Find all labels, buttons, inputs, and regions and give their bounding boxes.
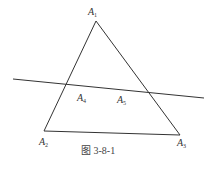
label-a1: A1	[88, 7, 97, 18]
label-a3: A3	[177, 138, 186, 149]
label-a4: A4	[77, 93, 86, 104]
secant-line	[13, 79, 204, 98]
triangle-a1-a2-a3	[44, 21, 180, 135]
label-a5: A5	[117, 95, 126, 106]
figure-caption: 图 3-8-1	[81, 146, 115, 156]
diagram-canvas: A1 A4 A5 A2 A3 图 3-8-1	[0, 0, 219, 170]
label-a2: A2	[39, 137, 48, 148]
